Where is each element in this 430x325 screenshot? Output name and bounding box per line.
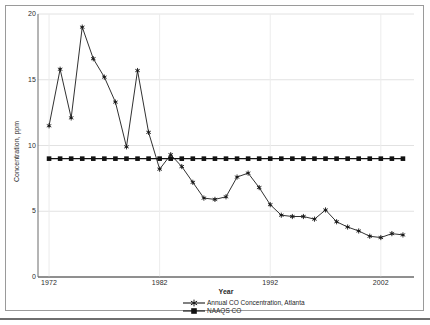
chart-legend: Annual CO Concentration, Atlanta NAAQS C… — [183, 299, 305, 315]
x-tick-label: 1982 — [149, 279, 171, 286]
y-axis-title: Concentration, ppm — [13, 92, 20, 212]
y-tick-label: 15 — [25, 76, 36, 83]
y-tick-label: 10 — [25, 142, 36, 149]
x-axis-title: Year — [38, 288, 414, 295]
legend-label-naaqs: NAAQS CO — [207, 307, 241, 315]
y-tick-label: 0 — [25, 273, 36, 280]
legend-marker-star-icon — [183, 299, 205, 307]
legend-item-annual: Annual CO Concentration, Atlanta — [183, 299, 305, 307]
series-naaqs-co — [47, 156, 405, 161]
x-tick-label: 1972 — [38, 279, 60, 286]
chart-figure: 05101520 1972198219922002 Concentration,… — [0, 0, 430, 325]
legend-label-annual: Annual CO Concentration, Atlanta — [207, 299, 305, 307]
legend-marker-square-icon — [183, 307, 205, 315]
gridlines — [38, 14, 414, 277]
x-tick-label: 2002 — [370, 279, 392, 286]
series-annual-co-concentration — [47, 25, 405, 241]
line-chart-plot — [0, 0, 430, 325]
x-tick-label: 1992 — [259, 279, 281, 286]
legend-item-naaqs: NAAQS CO — [183, 307, 305, 315]
y-tick-label: 20 — [25, 10, 36, 17]
y-tick-label: 5 — [25, 207, 36, 214]
